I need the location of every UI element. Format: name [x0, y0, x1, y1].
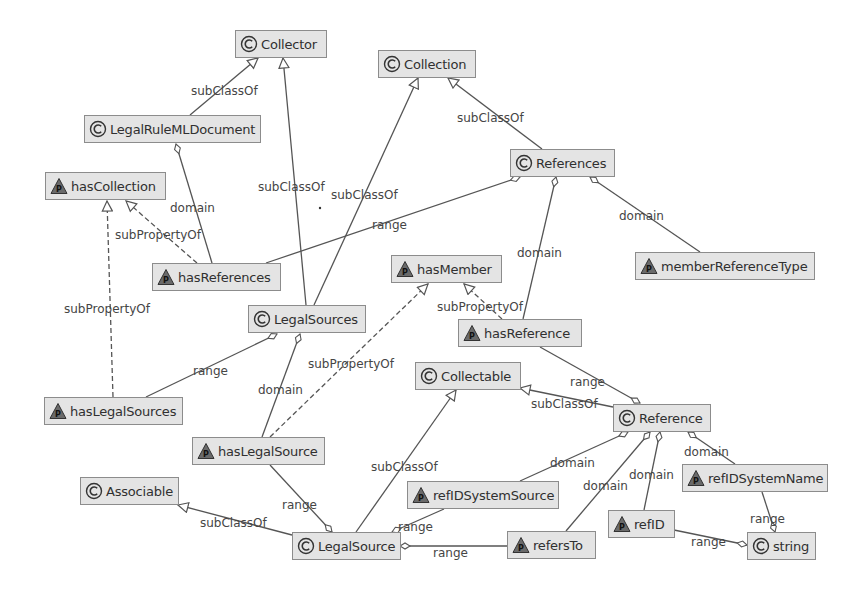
node-label: Reference — [639, 411, 703, 426]
svg-text:P: P — [163, 276, 169, 285]
property-p-triangle-icon: P — [463, 324, 481, 342]
class-node-reference[interactable]: Reference — [613, 404, 711, 432]
svg-text:P: P — [56, 185, 62, 194]
node-label: refIDSystemName — [708, 471, 823, 486]
edge-label-domain: domain — [550, 456, 595, 470]
class-c-icon — [752, 537, 770, 555]
svg-text:P: P — [646, 265, 652, 274]
class-c-icon — [618, 409, 636, 427]
class-c-icon — [240, 35, 258, 53]
class-node-string[interactable]: string — [747, 532, 816, 560]
edge-label-range: range — [433, 546, 468, 560]
property-node-hascollection[interactable]: P hasCollection — [45, 172, 166, 200]
edge-label-subclassof: subClassOf — [331, 188, 398, 202]
node-label: hasLegalSource — [218, 444, 318, 459]
edge-label-range: range — [193, 364, 228, 378]
svg-text:P: P — [469, 332, 475, 341]
edge-label-range: range — [750, 512, 785, 526]
svg-text:P: P — [518, 544, 524, 553]
edge-label-domain: domain — [629, 468, 674, 482]
node-label: LegalSource — [318, 539, 395, 554]
property-p-triangle-icon: P — [197, 442, 215, 460]
property-node-hasmember[interactable]: P hasMember — [391, 255, 502, 283]
edge-label-range: range — [570, 375, 605, 389]
node-label: memberReferenceType — [661, 259, 807, 274]
property-p-triangle-icon: P — [50, 177, 68, 195]
node-label: LegalSources — [274, 312, 358, 327]
edge-label-domain: domain — [517, 246, 562, 260]
edge-label-range: range — [282, 498, 317, 512]
svg-text:P: P — [693, 477, 699, 486]
class-c-icon — [85, 482, 103, 500]
node-label: refID — [634, 517, 664, 532]
property-node-haslegalsource[interactable]: P hasLegalSource — [192, 437, 325, 465]
edge-label-subpropertyof: subPropertyOf — [437, 300, 523, 314]
edge-label-domain: domain — [170, 201, 215, 215]
class-c-icon — [383, 55, 401, 73]
node-label: Collection — [404, 57, 466, 72]
svg-text:P: P — [402, 268, 408, 277]
node-label: Collectable — [441, 369, 511, 384]
property-p-triangle-icon: P — [157, 268, 175, 286]
svg-text:P: P — [203, 450, 209, 459]
edge-label-range: range — [398, 520, 433, 534]
node-label: LegalRuleMLDocument — [110, 122, 255, 137]
class-c-icon — [515, 154, 533, 172]
svg-text:P: P — [619, 523, 625, 532]
property-node-hasreferences[interactable]: P hasReferences — [152, 263, 281, 291]
property-p-triangle-icon: P — [512, 536, 530, 554]
edge-label-subclassof: subClassOf — [200, 516, 267, 530]
property-node-hasreference[interactable]: P hasReference — [458, 319, 582, 347]
class-node-references[interactable]: References — [510, 149, 615, 177]
property-p-triangle-icon: P — [613, 515, 631, 533]
class-c-icon — [297, 537, 315, 555]
property-node-memberreferencetype[interactable]: P memberReferenceType — [635, 252, 815, 280]
edge-label-subclassof: subClassOf — [191, 84, 258, 98]
property-p-triangle-icon: P — [396, 260, 414, 278]
property-p-triangle-icon: P — [687, 469, 705, 487]
node-label: Collector — [261, 37, 317, 52]
edge-label-domain: domain — [619, 209, 664, 223]
edge-label-domain: domain — [684, 445, 729, 459]
class-node-legalsources[interactable]: LegalSources — [248, 305, 366, 333]
class-node-legalsource[interactable]: LegalSource — [292, 532, 401, 560]
node-label: hasCollection — [71, 179, 156, 194]
node-label: hasLegalSources — [70, 404, 176, 419]
ontology-diagram: subClassOf subClassOf domain subProperty… — [0, 0, 865, 592]
edge-label-subpropertyof: subPropertyOf — [308, 357, 394, 371]
node-label: refIDSystemSource — [433, 488, 554, 503]
edge-label-subpropertyof: subPropertyOf — [64, 302, 150, 316]
edge-label-domain: domain — [258, 383, 303, 397]
edge-label-range: range — [372, 218, 407, 232]
property-node-refidsystemname[interactable]: P refIDSystemName — [682, 464, 828, 492]
node-label: References — [536, 156, 606, 171]
class-node-collectable[interactable]: Collectable — [415, 362, 521, 390]
edge-label-subclassof: subClassOf — [258, 180, 325, 194]
property-node-refidsystemsource[interactable]: P refIDSystemSource — [407, 481, 559, 509]
property-node-refersto[interactable]: P refersTo — [507, 531, 596, 559]
edge-label-subclassof: subClassOf — [457, 111, 524, 125]
property-p-triangle-icon: P — [640, 257, 658, 275]
node-label: refersTo — [533, 538, 583, 553]
property-p-triangle-icon: P — [412, 486, 430, 504]
edge-label-domain: domain — [583, 479, 628, 493]
node-label: Associable — [106, 484, 173, 499]
class-c-icon — [253, 310, 271, 328]
edge-label-subclassof: subClassOf — [531, 397, 598, 411]
class-c-icon — [89, 120, 107, 138]
class-node-associable[interactable]: Associable — [80, 477, 179, 505]
svg-text:P: P — [55, 410, 61, 419]
property-node-refid[interactable]: P refID — [608, 510, 675, 538]
class-node-collection[interactable]: Collection — [378, 50, 476, 78]
class-c-icon — [420, 367, 438, 385]
property-p-triangle-icon: P — [49, 402, 67, 420]
class-node-collector[interactable]: Collector — [235, 30, 327, 58]
node-label: hasReferences — [178, 270, 271, 285]
node-label: string — [773, 539, 809, 554]
edge-label-subpropertyof: subPropertyOf — [115, 228, 201, 242]
node-label: hasReference — [484, 326, 570, 341]
node-label: hasMember — [417, 262, 492, 277]
edge-label-subclassof: subClassOf — [371, 460, 438, 474]
class-node-legalrulemldocument[interactable]: LegalRuleMLDocument — [84, 115, 261, 143]
property-node-haslegalsources[interactable]: P hasLegalSources — [44, 397, 183, 425]
